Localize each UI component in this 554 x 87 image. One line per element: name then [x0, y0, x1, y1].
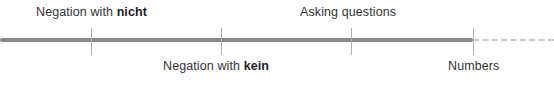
timeline-label-term-negation-nicht: nicht	[117, 5, 147, 19]
course-progress-timeline: Negation with nichtNegation with keinAsk…	[0, 0, 554, 87]
timeline-tick-negation-kein	[221, 28, 222, 55]
timeline-label-term-negation-kein: kein	[244, 59, 269, 73]
timeline-label-text-negation-nicht: Negation with	[36, 5, 117, 19]
timeline-tick-asking-questions	[351, 28, 352, 55]
timeline-label-asking-questions: Asking questions	[300, 5, 396, 20]
timeline-axis-completed	[0, 38, 473, 42]
timeline-tick-numbers	[473, 28, 474, 55]
timeline-label-numbers: Numbers	[448, 59, 499, 74]
timeline-label-text-negation-kein: Negation with	[163, 59, 244, 73]
timeline-tick-negation-nicht	[91, 28, 92, 55]
timeline-label-text-asking-questions: Asking questions	[300, 5, 396, 19]
timeline-label-text-numbers: Numbers	[448, 59, 499, 73]
timeline-label-negation-nicht: Negation with nicht	[36, 5, 147, 20]
timeline-axis-upcoming	[473, 39, 554, 41]
timeline-label-negation-kein: Negation with kein	[163, 59, 269, 74]
